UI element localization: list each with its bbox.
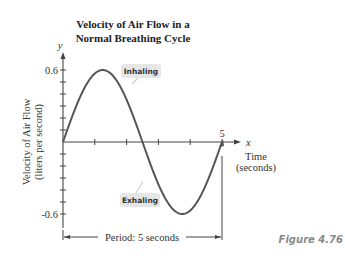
x-axis-arrow-icon <box>234 140 241 145</box>
x-axis-title-line-1: Time <box>245 151 267 162</box>
x-axis: x 5 Time (seconds) <box>63 128 277 174</box>
x-tick-label-5: 5 <box>219 128 224 139</box>
figure-label: Figure 4.76 <box>279 234 343 245</box>
y-axis-title-line-2: (liters per second) <box>33 104 45 180</box>
y-axis-title-line-1: Velocity of Air Flow <box>21 98 32 185</box>
y-axis-arrow-icon <box>61 52 66 59</box>
y-axis-letter: y <box>57 40 63 51</box>
period-right-arrow-icon <box>215 235 221 239</box>
inhaling-callout: Inhaling <box>121 64 161 84</box>
period-left-arrow-icon <box>64 235 70 239</box>
inhaling-label: Inhaling <box>124 67 158 76</box>
y-tick-label-min: -0.6 <box>41 209 58 220</box>
period-label: Period: 5 seconds <box>105 232 179 243</box>
x-axis-letter: x <box>245 137 251 148</box>
y-tick-label-max: 0.6 <box>45 65 58 76</box>
y-axis: y 0.6 -0.6 <box>41 40 66 228</box>
exhaling-callout: Exhaling <box>120 182 160 207</box>
exhaling-label: Exhaling <box>122 196 158 205</box>
chart-title-line-1: Velocity of Air Flow in a <box>76 18 190 30</box>
chart-title-line-2: Normal Breathing Cycle <box>76 32 191 44</box>
x-axis-title-line-2: (seconds) <box>236 162 277 174</box>
y-axis-title: Velocity of Air Flow (liters per second) <box>21 98 45 185</box>
chart: Velocity of Air Flow in a Normal Breathi… <box>0 0 345 260</box>
